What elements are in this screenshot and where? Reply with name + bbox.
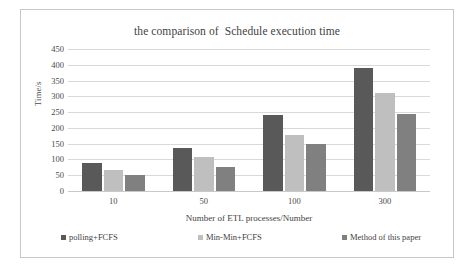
bar-slot <box>375 49 395 191</box>
legend-label: Method of this paper <box>350 232 421 242</box>
bar-min-min-fcfs-100[interactable] <box>285 135 305 191</box>
bar-group: 10 <box>68 49 159 191</box>
y-axis-tick-label: 250 <box>51 108 64 117</box>
bar-slot <box>216 49 236 191</box>
bar-method-of-this-paper-300[interactable] <box>397 114 417 191</box>
y-axis-tick-label: 350 <box>51 76 64 85</box>
bar-min-min-fcfs-50[interactable] <box>194 157 214 191</box>
gridline <box>68 191 430 192</box>
plot-area: 450400350300250200150100500 1050100300 <box>68 49 430 191</box>
y-axis-tick-label: 200 <box>51 124 64 133</box>
chart-title: the comparison of Schedule execution tim… <box>21 25 453 37</box>
bar-method-of-this-paper-50[interactable] <box>216 167 236 191</box>
legend-item[interactable]: Method of this paper <box>342 232 421 242</box>
chart-legend: polling+FCFSMin-Min+FCFSMethod of this p… <box>61 232 421 242</box>
legend-label: polling+FCFS <box>69 232 118 242</box>
legend-swatch-icon <box>342 235 347 240</box>
bar-slot <box>82 49 102 191</box>
bar-slot <box>397 49 417 191</box>
bar-slot <box>263 49 283 191</box>
legend-item[interactable]: polling+FCFS <box>61 232 118 242</box>
y-axis-tick-label: 150 <box>51 139 64 148</box>
x-axis-tick-label: 10 <box>68 196 159 206</box>
bar-polling-fcfs-300[interactable] <box>354 68 374 191</box>
y-axis-title: Time/s <box>33 81 43 106</box>
bar-polling-fcfs-100[interactable] <box>263 115 283 191</box>
legend-label: Min-Min+FCFS <box>206 232 262 242</box>
bar-slot <box>306 49 326 191</box>
bar-slot <box>194 49 214 191</box>
y-axis-tick-label: 450 <box>51 45 64 54</box>
bar-min-min-fcfs-10[interactable] <box>104 170 124 191</box>
bar-groups: 1050100300 <box>68 49 430 191</box>
chart-container: the comparison of Schedule execution tim… <box>20 9 454 258</box>
bar-group: 100 <box>249 49 340 191</box>
bar-min-min-fcfs-300[interactable] <box>375 93 395 191</box>
y-axis-tick-label: 400 <box>51 61 64 70</box>
bar-polling-fcfs-10[interactable] <box>82 163 102 191</box>
x-axis-tick-label: 100 <box>249 196 340 206</box>
legend-item[interactable]: Min-Min+FCFS <box>198 232 262 242</box>
x-axis-tick-label: 300 <box>340 196 431 206</box>
legend-swatch-icon <box>198 235 203 240</box>
bar-slot <box>354 49 374 191</box>
legend-swatch-icon <box>61 235 66 240</box>
y-axis-tick-label: 50 <box>56 171 65 180</box>
bar-polling-fcfs-50[interactable] <box>173 148 193 191</box>
bar-slot <box>285 49 305 191</box>
bar-slot <box>173 49 193 191</box>
bar-method-of-this-paper-100[interactable] <box>306 144 326 191</box>
x-axis-tick-label: 50 <box>159 196 250 206</box>
y-axis-tick-label: 0 <box>60 187 64 196</box>
bar-group: 300 <box>340 49 431 191</box>
bar-group: 50 <box>159 49 250 191</box>
bar-slot <box>104 49 124 191</box>
y-axis-tick-label: 100 <box>51 155 64 164</box>
bar-method-of-this-paper-10[interactable] <box>125 175 145 191</box>
bar-slot <box>125 49 145 191</box>
y-axis-tick-label: 300 <box>51 92 64 101</box>
x-axis-title: Number of ETL processes/Number <box>68 213 430 223</box>
